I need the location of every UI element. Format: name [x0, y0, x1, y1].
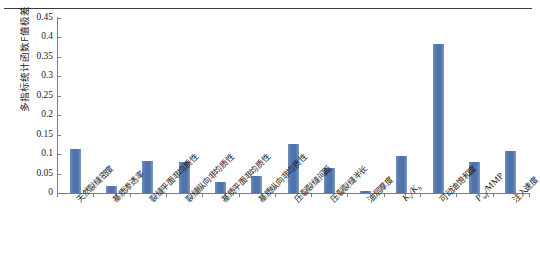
y-tick-label: 0.4	[19, 32, 53, 41]
x-tick-mark	[166, 193, 167, 197]
x-tick-mark	[529, 193, 530, 197]
x-tick-mark	[420, 193, 421, 197]
x-axis-tick-labels: 天然裂缝密度基质渗透率裂缝平面非均质性裂缝纵向非均质性基质平面非均质性基质纵向非…	[0, 196, 535, 258]
y-tick-mark	[57, 76, 61, 77]
x-tick-mark	[202, 193, 203, 197]
y-tick-mark	[57, 37, 61, 38]
x-tick-mark	[57, 193, 58, 197]
x-tick-mark	[93, 193, 94, 197]
figure-top-rule	[4, 8, 532, 9]
x-tick-mark	[493, 193, 494, 197]
y-tick-mark	[57, 18, 61, 19]
y-tick-mark	[57, 135, 61, 136]
bar	[396, 156, 407, 193]
x-tick-mark	[384, 193, 385, 197]
y-tick-mark	[57, 115, 61, 116]
x-tick-mark	[311, 193, 312, 197]
bar	[70, 149, 81, 193]
y-tick-label: 0.1	[19, 149, 53, 158]
y-tick-label: 0.25	[19, 91, 53, 100]
y-tick-mark	[57, 154, 61, 155]
x-tick-mark	[456, 193, 457, 197]
x-tick-mark	[130, 193, 131, 197]
y-tick-label: 0.35	[19, 52, 53, 61]
y-tick-label: 0.05	[19, 169, 53, 178]
y-tick-mark	[57, 96, 61, 97]
y-tick-mark	[57, 57, 61, 58]
bar	[433, 44, 444, 193]
y-tick-label: 0.45	[19, 13, 53, 22]
y-tick-label: 0.3	[19, 71, 53, 80]
y-tick-mark	[57, 174, 61, 175]
x-tick-mark	[239, 193, 240, 197]
x-tick-mark	[275, 193, 276, 197]
bar	[505, 151, 516, 193]
y-tick-label: 0.2	[19, 110, 53, 119]
y-tick-label: 0.15	[19, 130, 53, 139]
x-tick-mark	[347, 193, 348, 197]
